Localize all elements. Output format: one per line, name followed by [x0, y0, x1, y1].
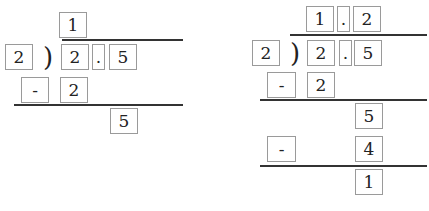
right-dividend-digit-1[interactable]: 2 [307, 40, 335, 66]
right-subtraction-line-2 [260, 165, 427, 167]
right-quotient-digit-2[interactable]: 2 [353, 6, 381, 32]
right-remainder[interactable]: 1 [355, 169, 383, 195]
right-step1-value[interactable]: 2 [307, 72, 335, 98]
right-carry-value[interactable]: 5 [355, 103, 383, 129]
right-step1-operator[interactable]: - [267, 72, 296, 98]
left-step1-operator[interactable]: - [21, 77, 49, 103]
right-dividend-digit-2[interactable]: 5 [354, 40, 382, 66]
left-dividend-digit-1[interactable]: 2 [61, 44, 89, 70]
right-division-bar [290, 34, 427, 36]
left-remainder[interactable]: 5 [110, 108, 138, 134]
right-quotient-decimal-point[interactable]: . [337, 6, 350, 32]
left-subtraction-line [14, 104, 183, 106]
right-divisor[interactable]: 2 [252, 40, 280, 66]
right-step2-value[interactable]: 4 [355, 136, 383, 162]
right-division-bracket: ) [290, 40, 300, 66]
right-subtraction-line-1 [260, 99, 427, 101]
left-division-bar [62, 39, 183, 41]
left-divisor[interactable]: 2 [5, 44, 33, 70]
left-quotient-digit-1[interactable]: 1 [59, 12, 87, 38]
right-dividend-decimal-point[interactable]: . [339, 40, 352, 66]
left-dividend-decimal-point[interactable]: . [92, 44, 105, 70]
right-quotient-digit-1[interactable]: 1 [306, 6, 334, 32]
left-dividend-digit-2[interactable]: 5 [109, 44, 137, 70]
left-division-bracket: ) [43, 44, 53, 70]
left-step1-value[interactable]: 2 [60, 77, 88, 103]
right-step2-operator[interactable]: - [267, 136, 296, 162]
